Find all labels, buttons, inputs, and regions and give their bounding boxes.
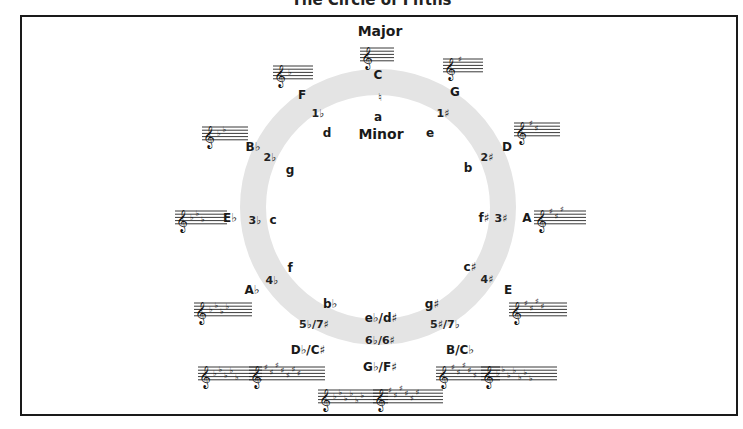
svg-text:♯: ♯ [468,366,472,375]
accidental-count-label: 3♯ [495,213,508,224]
treble-clef-icon: 𝄞 [176,208,188,233]
accidental-count-label: 5♯/7♭ [430,319,460,330]
minor-key-label: g [286,164,295,176]
svg-text:♭: ♭ [215,301,219,310]
svg-text:♯: ♯ [457,368,461,377]
svg-text:♭: ♭ [213,369,217,378]
minor-key-label: f♯ [478,212,489,224]
key-signature-staff: 𝄞♯♯♯ [534,203,586,233]
major-key-label: G♭/F♯ [363,361,397,373]
svg-text:♯: ♯ [399,384,403,393]
treble-clef-icon: 𝄞 [195,300,207,325]
key-signature-staff: 𝄞♯♯ [514,115,560,145]
svg-text:♭: ♭ [518,373,522,382]
accidental-count-label: 3♭ [249,215,262,226]
minor-key-label: c [269,214,276,226]
svg-text:♭: ♭ [333,392,337,401]
svg-text:♯: ♯ [281,366,285,375]
key-signature-staff: 𝄞 [360,40,394,70]
minor-key-label: e♭/d♯ [365,312,398,324]
treble-clef-icon: 𝄞 [482,364,494,389]
treble-clef-icon: 𝄞 [535,208,547,233]
treble-clef-icon: 𝄞 [319,387,331,412]
key-signature-staff: 𝄞♯ [443,51,483,81]
svg-text:♭: ♭ [226,302,230,311]
key-signature-staff: 𝄞♯♯♯♯ [509,295,567,325]
key-signature-staff: 𝄞♭♭♭♭♭ [198,359,262,389]
key-signature-staff: 𝄞♭♭♭♭♭♭ [318,382,388,412]
minor-key-label: g♯ [425,298,439,310]
svg-text:♯: ♯ [535,124,539,133]
minor-key-label: e [426,127,434,139]
accidental-count-label: 5♭/7♯ [299,319,329,330]
svg-text:♯: ♯ [549,207,553,216]
svg-text:♯: ♯ [394,391,398,400]
svg-text:♭: ♭ [235,373,239,382]
minor-key-label: b [464,162,473,174]
svg-text:♯: ♯ [535,297,539,306]
svg-text:♭: ♭ [350,389,354,398]
svg-text:♭: ♭ [220,307,224,316]
accidental-count-label: 6♭/6♯ [365,335,395,346]
minor-heading: Minor [358,127,403,141]
svg-text:♯: ♯ [451,363,455,372]
svg-text:♭: ♭ [219,365,223,374]
treble-clef-icon: 𝄞 [515,120,527,145]
accidental-count-label: 2♯ [481,152,494,163]
svg-text:♭: ♭ [339,388,343,397]
svg-text:♯: ♯ [555,212,559,221]
treble-clef-icon: 𝄞 [510,300,522,325]
svg-text:♭: ♭ [355,396,359,405]
svg-text:♯: ♯ [388,386,392,395]
major-heading: Major [358,24,403,38]
svg-text:♭: ♭ [502,365,506,374]
svg-text:♯: ♯ [458,55,462,64]
svg-text:♭: ♭ [496,369,500,378]
svg-text:♭: ♭ [223,125,227,134]
svg-text:♯: ♯ [529,119,533,128]
svg-text:♭: ♭ [524,368,528,377]
svg-text:♯: ♯ [530,304,534,313]
svg-text:♭: ♭ [209,305,213,314]
minor-key-label: a [374,111,382,123]
svg-text:♭: ♭ [361,391,365,400]
svg-text:♭: ♭ [288,68,292,77]
major-key-label: A [522,212,531,224]
treble-clef-icon: 𝄞 [444,56,456,81]
major-key-label: D♭/C♯ [291,344,326,356]
major-key-label: C [374,69,383,81]
treble-clef-icon: 𝄞 [274,63,286,88]
svg-text:♯: ♯ [275,361,279,370]
svg-text:♯: ♯ [416,388,420,397]
svg-text:♭: ♭ [344,394,348,403]
key-signature-staff: 𝄞♭ [273,58,313,88]
accidental-count-label: 1♯ [437,108,450,119]
svg-text:♭: ♭ [529,374,533,383]
accidental-count-label: ♮ [378,92,382,103]
minor-key-label: f [287,262,292,274]
treble-clef-icon: 𝄞 [203,124,215,149]
key-signature-staff: 𝄞♭♭ [202,119,248,149]
svg-text:♯: ♯ [473,371,477,380]
treble-clef-icon: 𝄞 [361,45,373,70]
major-key-label: F [298,89,306,101]
svg-text:♯: ♯ [264,363,268,372]
major-key-label: G [450,86,460,98]
accidental-count-label: 1♭ [312,108,325,119]
accidental-count-label: 4♯ [481,274,494,285]
svg-text:♭: ♭ [513,366,517,375]
svg-text:♯: ♯ [270,368,274,377]
minor-key-label: b♭ [323,298,337,310]
svg-text:♯: ♯ [560,205,564,214]
key-signature-staff: 𝄞♭♭♭♭♭♭♭ [481,359,557,389]
svg-text:♭: ♭ [190,213,194,222]
key-signature-staff: 𝄞♭♭♭♭ [194,295,252,325]
minor-key-label: c♯ [464,261,477,273]
svg-text:♯: ♯ [541,302,545,311]
minor-key-label: d [323,127,332,139]
svg-text:♯: ♯ [286,371,290,380]
major-key-label: D [502,141,512,153]
svg-text:♭: ♭ [507,371,511,380]
key-signature-staff: 𝄞♭♭♭ [175,203,227,233]
treble-clef-icon: 𝄞 [199,364,211,389]
